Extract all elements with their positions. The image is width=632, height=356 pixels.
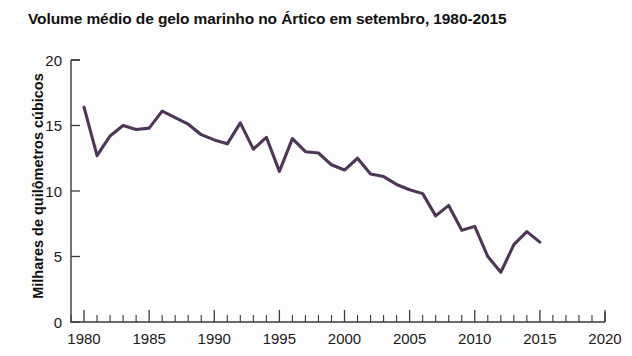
x-tick-label: 2000 [328, 330, 361, 347]
sea-ice-volume-series [84, 107, 540, 272]
chart-figure: Volume médio de gelo marinho no Ártico e… [0, 0, 632, 356]
x-tick-label: 2005 [393, 330, 426, 347]
x-tick-label: 2010 [458, 330, 491, 347]
x-tick-label: 1985 [132, 330, 165, 347]
y-tick-label: 5 [54, 248, 62, 265]
x-tick-label: 1995 [263, 330, 296, 347]
x-tick-label: 1990 [198, 330, 231, 347]
y-tick-label: 20 [45, 52, 62, 69]
x-axis-tick-group: 198019851990199520002005201020152020 [67, 310, 621, 347]
y-tick-label: 0 [54, 314, 62, 331]
x-tick-label: 2015 [523, 330, 556, 347]
x-tick-label: 2020 [588, 330, 621, 347]
line-chart-plot: 05101520 1980198519901995200020052010201… [0, 0, 632, 356]
y-axis-tick-group: 05101520 [45, 52, 80, 331]
y-tick-label: 10 [45, 183, 62, 200]
x-tick-label: 1980 [67, 330, 100, 347]
axis-frame [71, 60, 605, 322]
y-tick-label: 15 [45, 117, 62, 134]
